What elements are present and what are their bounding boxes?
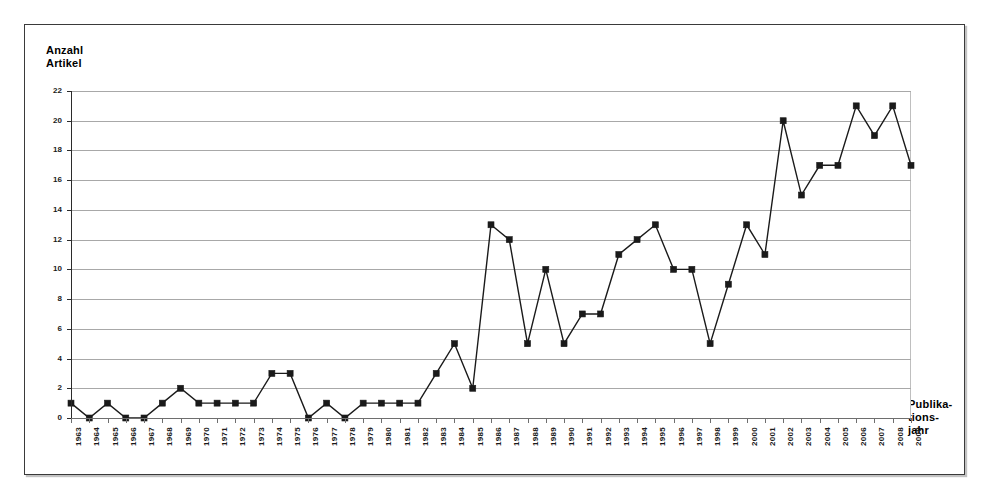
y-axis-title: Anzahl Artikel (46, 44, 83, 70)
x-tick-label-1987: 1987 (512, 427, 521, 446)
x-tick-label-2009: 2009 (914, 427, 923, 446)
data-point-2007 (871, 133, 877, 139)
x-axis-title-line-2: tions- (908, 411, 978, 424)
x-tick-1973 (254, 419, 255, 423)
y-tick-16 (67, 180, 71, 181)
x-tick-1966 (126, 419, 127, 423)
x-tick-1992 (601, 419, 602, 423)
data-point-1985 (470, 385, 476, 391)
x-tick-1969 (181, 419, 182, 423)
data-point-1997 (689, 266, 695, 272)
x-tick-label-1969: 1969 (184, 427, 193, 446)
x-tick-2007 (874, 419, 875, 423)
y-tick-label-12: 12 (40, 235, 62, 244)
y-tick-18 (67, 150, 71, 151)
data-point-1986 (488, 222, 494, 228)
x-tick-label-1981: 1981 (403, 427, 412, 446)
data-point-2008 (890, 103, 896, 109)
y-tick-label-22: 22 (40, 86, 62, 95)
data-point-1980 (378, 400, 384, 406)
data-point-1982 (415, 400, 421, 406)
y-tick-14 (67, 210, 71, 211)
data-point-1971 (214, 400, 220, 406)
x-tick-1963 (71, 419, 72, 423)
data-point-1987 (506, 237, 512, 243)
data-point-1974 (269, 370, 275, 376)
data-point-1995 (652, 222, 658, 228)
x-tick-1980 (381, 419, 382, 423)
y-tick-label-6: 6 (40, 324, 62, 333)
y-tick-20 (67, 121, 71, 122)
x-tick-label-1994: 1994 (640, 427, 649, 446)
x-tick-label-1972: 1972 (238, 427, 247, 446)
y-axis-line (71, 91, 72, 419)
y-tick-12 (67, 240, 71, 241)
data-point-1999 (725, 281, 731, 287)
x-tick-label-1995: 1995 (658, 427, 667, 446)
y-tick-label-10: 10 (40, 264, 62, 273)
y-tick-label-14: 14 (40, 205, 62, 214)
data-point-2004 (817, 162, 823, 168)
x-tick-label-1978: 1978 (348, 427, 357, 446)
x-tick-2002 (783, 419, 784, 423)
y-tick-8 (67, 299, 71, 300)
x-tick-label-1967: 1967 (147, 427, 156, 446)
data-point-1991 (579, 311, 585, 317)
x-axis-title-line-1: Publika- (908, 398, 978, 411)
data-point-2005 (835, 162, 841, 168)
data-point-1969 (178, 385, 184, 391)
data-point-1973 (251, 400, 257, 406)
data-point-1998 (707, 341, 713, 347)
x-tick-1978 (345, 419, 346, 423)
x-tick-label-1996: 1996 (677, 427, 686, 446)
chart-page: Anzahl Artikel Publika- tions- jahr 0246… (0, 0, 987, 499)
y-tick-label-2: 2 (40, 383, 62, 392)
x-tick-label-1965: 1965 (111, 427, 120, 446)
series-line (71, 106, 911, 418)
x-tick-label-2003: 2003 (804, 427, 813, 446)
x-tick-1982 (418, 419, 419, 423)
x-tick-label-1986: 1986 (494, 427, 503, 446)
x-tick-label-1976: 1976 (311, 427, 320, 446)
data-point-1989 (543, 266, 549, 272)
x-tick-label-1975: 1975 (293, 427, 302, 446)
data-point-1968 (159, 400, 165, 406)
x-tick-2008 (893, 419, 894, 423)
x-tick-2001 (765, 419, 766, 423)
y-tick-10 (67, 269, 71, 270)
x-tick-label-1989: 1989 (549, 427, 558, 446)
x-tick-label-1970: 1970 (202, 427, 211, 446)
data-point-2001 (762, 252, 768, 258)
data-point-1994 (634, 237, 640, 243)
x-tick-1976 (308, 419, 309, 423)
x-tick-label-1966: 1966 (129, 427, 138, 446)
data-point-1992 (598, 311, 604, 317)
y-axis-title-line-2: Artikel (46, 57, 83, 70)
x-tick-2004 (820, 419, 821, 423)
x-tick-label-1984: 1984 (457, 427, 466, 446)
x-tick-1996 (674, 419, 675, 423)
x-tick-label-2000: 2000 (750, 427, 759, 446)
x-tick-1983 (436, 419, 437, 423)
data-point-1984 (451, 341, 457, 347)
x-tick-label-1980: 1980 (384, 427, 393, 446)
x-tick-2000 (747, 419, 748, 423)
data-point-1979 (360, 400, 366, 406)
data-point-1981 (397, 400, 403, 406)
x-tick-label-2007: 2007 (877, 427, 886, 446)
data-point-1983 (433, 370, 439, 376)
x-tick-1988 (528, 419, 529, 423)
x-tick-1991 (582, 419, 583, 423)
y-axis-title-line-1: Anzahl (46, 44, 83, 57)
x-tick-1971 (217, 419, 218, 423)
data-point-1977 (324, 400, 330, 406)
x-tick-label-2002: 2002 (786, 427, 795, 446)
data-point-1988 (525, 341, 531, 347)
x-tick-label-1998: 1998 (713, 427, 722, 446)
x-tick-label-2008: 2008 (896, 427, 905, 446)
x-tick-2009 (911, 419, 912, 423)
y-tick-2 (67, 388, 71, 389)
y-tick-6 (67, 329, 71, 330)
x-tick-1989 (546, 419, 547, 423)
data-point-1970 (196, 400, 202, 406)
